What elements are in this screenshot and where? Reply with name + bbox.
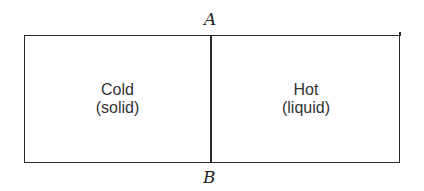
- region-title-cold: Cold: [101, 81, 134, 99]
- boundary-label-top: A: [204, 11, 216, 28]
- region-subtitle-solid: (solid): [96, 99, 140, 117]
- cold-solid-region: Cold (solid): [24, 35, 211, 163]
- hot-liquid-region: Hot (liquid): [212, 35, 400, 163]
- boundary-label-bottom: B: [203, 169, 216, 186]
- region-subtitle-liquid: (liquid): [282, 99, 330, 117]
- phase-boundary-diagram: A B Cold (solid) Hot (liquid): [0, 0, 424, 191]
- region-title-hot: Hot: [294, 81, 319, 99]
